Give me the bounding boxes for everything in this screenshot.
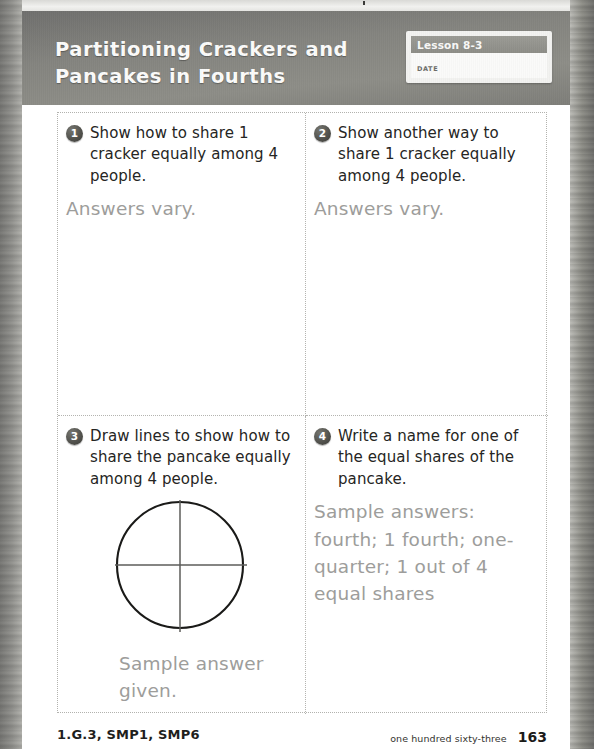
problem-number-badge: 4 xyxy=(314,428,331,445)
problem-3-answer: Sample answer given. xyxy=(119,650,299,704)
problem-4-answer: Sample answers: fourth; 1 fourth; one-qu… xyxy=(314,498,536,607)
problem-2-prompt: Show another way to share 1 cracker equa… xyxy=(338,123,536,187)
problem-2-answer: Answers vary. xyxy=(314,195,536,222)
worksheet-header: Partitioning Crackers and Pancakes in Fo… xyxy=(22,11,570,105)
problem-grid: 1 Show how to share 1 cracker equally am… xyxy=(57,112,547,713)
problem-3-prompt: Draw lines to show how to share the panc… xyxy=(90,426,293,490)
lesson-info-box: Lesson 8-3 DATE xyxy=(406,31,552,83)
date-field[interactable]: DATE xyxy=(411,53,547,78)
problem-1-heading: 1 Show how to share 1 cracker equally am… xyxy=(66,123,293,187)
problem-cell-3: 3 Draw lines to show how to share the pa… xyxy=(58,416,306,714)
problem-cell-2: 2 Show another way to share 1 cracker eq… xyxy=(306,113,548,416)
lesson-number-label: Lesson 8-3 xyxy=(417,39,483,51)
problem-number-badge: 1 xyxy=(66,125,83,142)
problem-4-prompt: Write a name for one of the equal shares… xyxy=(338,426,536,490)
partitioned-circle-icon xyxy=(115,496,251,644)
footer-page-number: 163 xyxy=(518,729,547,745)
scan-gutter-right xyxy=(570,0,594,749)
scan-gutter-left xyxy=(0,0,22,749)
problem-cell-1: 1 Show how to share 1 cracker equally am… xyxy=(58,113,306,416)
page-title: Partitioning Crackers and Pancakes in Fo… xyxy=(55,37,385,90)
problem-number-badge: 2 xyxy=(314,125,331,142)
footer-page-words: one hundred sixty-three xyxy=(390,733,507,744)
date-field-label: DATE xyxy=(417,65,438,73)
footer-standards: 1.G.3, SMP1, SMP6 xyxy=(57,727,200,742)
problem-number-badge: 3 xyxy=(66,428,83,445)
problem-4-heading: 4 Write a name for one of the equal shar… xyxy=(314,426,536,490)
scan-top-strip xyxy=(22,0,570,11)
problem-1-prompt: Show how to share 1 cracker equally amon… xyxy=(90,123,293,187)
problem-cell-4: 4 Write a name for one of the equal shar… xyxy=(306,416,548,714)
problem-1-answer: Answers vary. xyxy=(66,195,293,222)
problem-2-heading: 2 Show another way to share 1 cracker eq… xyxy=(314,123,536,187)
footer-page-info: one hundred sixty-three 163 xyxy=(390,729,547,745)
problem-3-heading: 3 Draw lines to show how to share the pa… xyxy=(66,426,293,490)
worksheet-page: Partitioning Crackers and Pancakes in Fo… xyxy=(0,0,594,749)
scan-speck xyxy=(363,1,365,5)
lesson-number-band: Lesson 8-3 xyxy=(411,36,547,53)
pancake-circle-figure xyxy=(115,496,251,644)
